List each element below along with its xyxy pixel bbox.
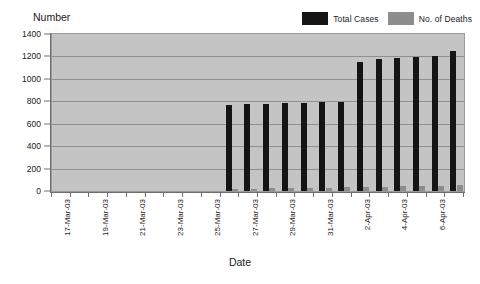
x-axis-tick (426, 192, 427, 197)
x-axis-tick-label: 29-Mar-03 (288, 199, 297, 236)
bar-total-cases (263, 104, 269, 191)
x-axis-tick-label: 4-Apr-03 (400, 199, 409, 230)
x-axis-tick (107, 192, 108, 197)
y-axis-tick-label: 800 (27, 96, 41, 106)
x-axis-tick (313, 192, 314, 197)
x-axis-tick-label: 19-Mar-03 (101, 199, 110, 236)
bar-total-cases (376, 59, 382, 191)
bar-total-cases (450, 51, 456, 191)
x-axis-tick-label: 2-Apr-03 (363, 199, 372, 230)
plot-area (51, 33, 465, 192)
bar-total-cases (338, 102, 344, 191)
y-axis-tick-labels: 0200400600800100012001400 (0, 33, 51, 192)
x-axis-tick (220, 192, 221, 197)
bar-total-cases (413, 57, 419, 191)
bar-no-of-deaths (438, 186, 444, 191)
bar-total-cases (282, 103, 288, 191)
x-axis-tick-label: 17-Mar-03 (63, 199, 72, 236)
bar-no-of-deaths (251, 189, 257, 191)
bar-no-of-deaths (363, 187, 369, 191)
y-axis-tick-label: 200 (27, 164, 41, 174)
x-axis-ticks (51, 192, 465, 198)
y-axis-tick-label: 400 (27, 141, 41, 151)
x-axis-tick (294, 192, 295, 197)
bar-series-container (52, 34, 464, 191)
x-axis-tick-label: 23-Mar-03 (176, 199, 185, 236)
bar-no-of-deaths (400, 186, 406, 191)
x-axis-tick (201, 192, 202, 197)
x-axis-tick (388, 192, 389, 197)
chart-legend: Total CasesNo. of Deaths (302, 12, 472, 25)
y-axis-tick-label: 600 (27, 119, 41, 129)
x-axis-tick-label: 27-Mar-03 (251, 199, 260, 236)
bar-no-of-deaths (307, 188, 313, 191)
legend-entry-1: Total Cases (302, 12, 379, 25)
x-axis-tick-label: 31-Mar-03 (326, 199, 335, 236)
x-axis-tick-label: 25-Mar-03 (213, 199, 222, 236)
bar-no-of-deaths (288, 188, 294, 191)
x-axis-tick (332, 192, 333, 197)
bar-no-of-deaths (457, 185, 463, 191)
bar-no-of-deaths (326, 188, 332, 191)
y-axis-tick-label: 1400 (22, 29, 41, 39)
y-axis-tick-label: 1000 (22, 74, 41, 84)
x-axis-tick (182, 192, 183, 197)
x-axis-tick (463, 192, 464, 197)
x-axis-tick-labels: 17-Mar-0319-Mar-0321-Mar-0323-Mar-0325-M… (51, 199, 465, 251)
sars-epidemic-bar-chart: Total CasesNo. of Deaths Number 02004006… (0, 0, 480, 284)
bar-total-cases (301, 103, 307, 191)
bar-no-of-deaths (419, 186, 425, 191)
bar-total-cases (357, 62, 363, 191)
x-axis-tick (88, 192, 89, 197)
legend-swatch-icon (388, 12, 414, 25)
x-axis-tick (163, 192, 164, 197)
y-axis-tick-label: 0 (36, 186, 41, 196)
x-axis-tick (407, 192, 408, 197)
x-axis-tick (369, 192, 370, 197)
bar-total-cases (432, 56, 438, 191)
legend-entry-2: No. of Deaths (388, 12, 472, 25)
x-axis-tick (51, 192, 52, 197)
bar-no-of-deaths (344, 187, 350, 191)
x-axis-tick-label: 21-Mar-03 (138, 199, 147, 236)
legend-label: No. of Deaths (419, 14, 472, 24)
bar-no-of-deaths (269, 188, 275, 191)
legend-label: Total Cases (333, 14, 379, 24)
bar-total-cases (319, 102, 325, 191)
x-axis-tick (257, 192, 258, 197)
bar-no-of-deaths (232, 189, 238, 191)
x-axis-tick (70, 192, 71, 197)
bar-total-cases (244, 104, 250, 191)
x-axis-tick (351, 192, 352, 197)
x-axis-tick (444, 192, 445, 197)
y-axis-tick-label: 1200 (22, 51, 41, 61)
bar-no-of-deaths (382, 187, 388, 191)
bar-total-cases (226, 105, 232, 191)
x-axis-title: Date (0, 256, 480, 268)
bar-total-cases (394, 58, 400, 191)
x-axis-tick-label: 6-Apr-03 (438, 199, 447, 230)
x-axis-tick (126, 192, 127, 197)
x-axis-tick (145, 192, 146, 197)
x-axis-tick (276, 192, 277, 197)
y-axis-title: Number (33, 11, 70, 23)
legend-swatch-icon (302, 12, 328, 25)
x-axis-tick (238, 192, 239, 197)
